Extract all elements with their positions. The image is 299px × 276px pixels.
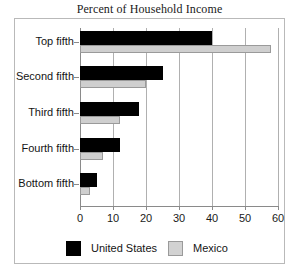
category-tick-top-fifth	[74, 42, 79, 43]
bar-group-bottom-fifth	[80, 173, 278, 195]
category-label-top-fifth: Top fifth	[4, 35, 74, 47]
x-tick-mark-0	[80, 206, 81, 210]
x-tick-label-10: 10	[98, 212, 128, 224]
y-axis-category-labels: Top fifthSecond fifthThird fifthFourth f…	[2, 0, 74, 276]
x-tick-mark-20	[146, 206, 147, 210]
gridline-60	[278, 28, 279, 206]
bar-united-states-second-fifth	[80, 66, 163, 80]
x-tick-label-30: 30	[164, 212, 194, 224]
category-tick-fourth-fifth	[74, 149, 79, 150]
bar-mexico-bottom-fifth	[80, 187, 90, 195]
legend-entry-united-states: United States	[66, 238, 157, 258]
category-label-fourth-fifth: Fourth fifth	[4, 142, 74, 154]
bar-group-third-fifth	[80, 102, 278, 124]
x-tick-label-60: 60	[263, 212, 293, 224]
category-tick-third-fifth	[74, 113, 79, 114]
bar-united-states-bottom-fifth	[80, 173, 97, 187]
x-tick-label-50: 50	[230, 212, 260, 224]
bar-group-top-fifth	[80, 31, 278, 53]
plot-area	[80, 28, 278, 206]
bar-mexico-second-fifth	[80, 80, 146, 88]
category-label-second-fifth: Second fifth	[4, 70, 74, 82]
legend-swatch-mexico	[168, 241, 183, 256]
chart-legend: United States Mexico	[14, 238, 285, 262]
chart-page: Percent of Household Income 010203040506…	[0, 0, 299, 276]
bar-mexico-top-fifth	[80, 45, 271, 53]
x-tick-mark-30	[179, 206, 180, 210]
x-tick-label-20: 20	[131, 212, 161, 224]
x-tick-mark-50	[245, 206, 246, 210]
bar-united-states-top-fifth	[80, 31, 212, 45]
legend-entry-mexico: Mexico	[168, 238, 228, 258]
bar-group-second-fifth	[80, 66, 278, 88]
category-tick-second-fifth	[74, 77, 79, 78]
bar-united-states-fourth-fifth	[80, 138, 120, 152]
x-tick-mark-40	[212, 206, 213, 210]
bar-mexico-fourth-fifth	[80, 152, 103, 160]
bar-united-states-third-fifth	[80, 102, 139, 116]
category-tick-bottom-fifth	[74, 184, 79, 185]
category-label-bottom-fifth: Bottom fifth	[4, 177, 74, 189]
legend-label-mexico: Mexico	[193, 242, 228, 254]
category-label-third-fifth: Third fifth	[4, 106, 74, 118]
x-tick-label-40: 40	[197, 212, 227, 224]
x-tick-mark-60	[278, 206, 279, 210]
legend-swatch-united-states	[66, 241, 81, 256]
legend-label-united-states: United States	[91, 242, 157, 254]
bar-mexico-third-fifth	[80, 116, 120, 124]
bar-group-fourth-fifth	[80, 138, 278, 160]
x-tick-mark-10	[113, 206, 114, 210]
